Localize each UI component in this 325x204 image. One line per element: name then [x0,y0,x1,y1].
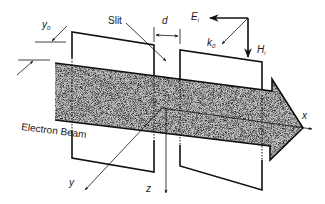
electron-beam-slit-diagram: Slit y0 d Ei k0 Hi Electron Beam x y z [0,0,325,204]
x-axis-label: x [301,110,308,121]
Hi-label: Hi [257,44,266,56]
electron-beam [55,63,303,160]
slit-label: Slit [108,15,122,26]
electron-beam-label: Electron Beam [21,121,87,140]
d-label: d [162,15,168,26]
k0-label: k0 [207,37,216,49]
k-vector [222,18,248,44]
y0-label: y0 [41,19,51,31]
d-dimension [154,27,180,44]
Ei-label: Ei [191,11,200,23]
y-axis-label: y [68,177,75,188]
z-axis-label: z [145,183,151,194]
incident-field-vectors [210,18,248,57]
